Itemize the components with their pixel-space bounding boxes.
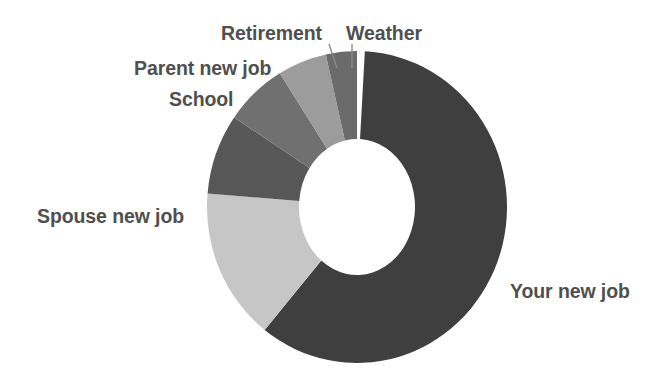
- slice-label-weather: Weather: [346, 22, 422, 44]
- donut-chart: [0, 0, 670, 382]
- donut-slices: [207, 51, 507, 363]
- chart-canvas: Your new job Spouse new job School Paren…: [0, 0, 670, 382]
- slice-label-your-new-job: Your new job: [510, 280, 630, 302]
- slice-label-spouse-new-job: Spouse new job: [37, 205, 184, 227]
- slice-label-parent-new-job: Parent new job: [134, 57, 271, 79]
- slice-label-school: School: [169, 88, 233, 110]
- slice-label-retirement: Retirement: [221, 22, 322, 44]
